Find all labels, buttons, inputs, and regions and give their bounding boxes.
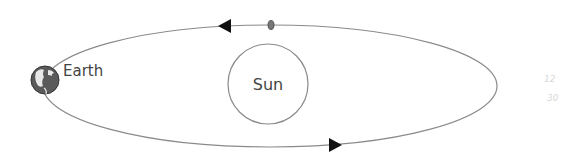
sun-label: Sun — [253, 75, 283, 94]
faint-mark-bottom: 30 — [547, 93, 559, 103]
faint-mark-top: 12 — [544, 74, 556, 84]
small-body-icon — [268, 21, 274, 30]
earth-label: Earth — [63, 62, 103, 80]
direction-arrow-left-icon — [218, 19, 231, 33]
orbit-diagram: Sun Earth 12 30 — [0, 0, 587, 159]
earth-globe-icon — [31, 66, 59, 94]
direction-arrow-right-icon — [329, 138, 342, 152]
